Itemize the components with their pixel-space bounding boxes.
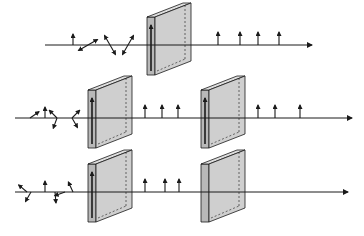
- unpolarized-field-arrow-icon: [128, 35, 134, 45]
- row-parallel-polarizers: [15, 76, 352, 148]
- polarizer-plate: [88, 76, 132, 148]
- polarizer-plate: [147, 3, 191, 75]
- unpolarized-field-arrow-icon: [55, 192, 65, 196]
- unpolarized-field-arrow-icon: [49, 110, 57, 118]
- unpolarized-field-arrow-icon: [72, 118, 78, 128]
- unpolarized-field-arrow-icon: [30, 112, 39, 118]
- polarization-diagram: [0, 0, 364, 236]
- polarizer-plate: [88, 150, 132, 222]
- polarizer-plate: [201, 76, 245, 148]
- unpolarized-field-arrow-icon: [88, 40, 98, 46]
- unpolarized-field-arrow-icon: [26, 192, 32, 202]
- unpolarized-field-arrow-icon: [68, 182, 73, 192]
- unpolarized-field-arrow-icon: [55, 192, 56, 203]
- unpolarized-field-arrow-icon: [105, 35, 111, 45]
- unpolarized-field-arrow-icon: [53, 118, 57, 128]
- polarizer-plate: [201, 150, 245, 222]
- unpolarized-field-arrow-icon: [78, 45, 88, 51]
- row-single-polarizer: [45, 3, 312, 75]
- unpolarized-field-arrow-icon: [19, 185, 27, 192]
- unpolarized-field-arrow-icon: [72, 110, 80, 118]
- diagram-canvas: [0, 0, 364, 236]
- unpolarized-field-arrow-icon: [123, 45, 129, 55]
- unpolarized-field-arrow-icon: [110, 45, 116, 55]
- row-crossed-polarizers: [15, 150, 348, 222]
